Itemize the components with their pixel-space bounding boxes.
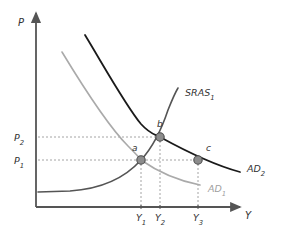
curve-label-ad2: AD2 [246,163,265,178]
output-tick-label-y2: Y2 [155,212,165,227]
point-label-a: a [132,143,138,153]
point-label-c: c [206,143,211,153]
ad-as-diagram: abc PYP2P1Y1Y2Y3SRAS1AD2AD1 [0,0,283,240]
y-axis-label: P [18,17,25,28]
diagram-canvas: abc PYP2P1Y1Y2Y3SRAS1AD2AD1 [0,0,283,240]
curve-ad2 [85,35,240,172]
guide-lines-group [38,137,198,207]
output-tick-label-y1: Y1 [136,212,146,227]
point-label-b: b [157,119,163,129]
curves-group [38,35,240,192]
point-a[interactable] [137,156,145,164]
price-tick-label-p1: P1 [14,155,24,170]
output-tick-label-y3: Y3 [193,212,203,227]
axes-group [36,13,240,207]
price-tick-label-p2: P2 [14,132,24,147]
curve-label-sras1: SRAS1 [185,87,215,102]
curve-ad1 [62,52,200,185]
point-c[interactable] [194,156,202,164]
curve-label-ad1: AD1 [207,183,226,198]
x-axis-label: Y [245,210,252,221]
point-b[interactable] [156,133,164,141]
